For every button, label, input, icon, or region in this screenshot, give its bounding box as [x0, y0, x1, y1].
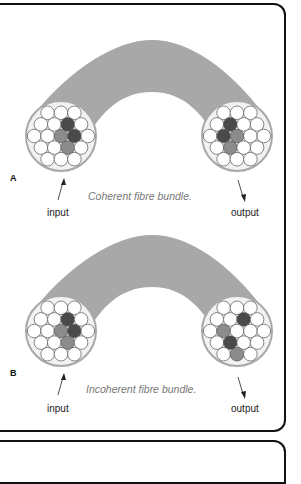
incoherent-input-label: input [47, 403, 69, 414]
fibre [54, 347, 68, 361]
output-arrow-icon [238, 377, 246, 399]
input-arrow-icon [58, 178, 66, 200]
fibre [230, 347, 244, 361]
panel-a-label: A [10, 173, 17, 183]
panel-b: B Incoherent fibre bundle. input output [10, 235, 272, 414]
fibre [244, 152, 258, 166]
next-figure-frame [0, 440, 286, 484]
fibre [41, 152, 55, 166]
coherent-input-end [26, 101, 96, 171]
fibre [244, 347, 258, 361]
input-arrow-icon [58, 373, 66, 395]
coherent-input-label: input [47, 207, 69, 218]
panel-a: A Coherent fibre bundle. input output [10, 40, 272, 218]
coherent-caption: Coherent fibre bundle. [88, 190, 192, 202]
fibre [68, 347, 82, 361]
coherent-output-label: output [231, 207, 259, 218]
incoherent-output-label: output [231, 403, 259, 414]
fibre [54, 152, 68, 166]
output-arrow-icon [238, 180, 246, 202]
fibre [41, 347, 55, 361]
incoherent-input-end [26, 296, 96, 366]
incoherent-output-end [202, 296, 272, 366]
incoherent-caption: Incoherent fibre bundle. [86, 383, 196, 395]
fibre [217, 152, 231, 166]
coherent-output-end [202, 101, 272, 171]
fibre [230, 152, 244, 166]
fibre [217, 347, 231, 361]
panel-b-label: B [10, 368, 17, 378]
fibre [68, 152, 82, 166]
